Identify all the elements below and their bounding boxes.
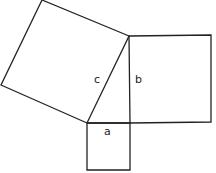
label-b: b — [135, 74, 142, 85]
label-a: a — [104, 126, 111, 137]
label-c: c — [94, 74, 100, 85]
pythagorean-diagram — [0, 0, 216, 173]
square-c — [1, 0, 129, 123]
